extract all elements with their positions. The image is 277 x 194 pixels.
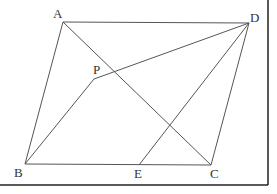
frame-border xyxy=(0,0,268,185)
label-point-P: P xyxy=(93,62,100,77)
segment-DE xyxy=(139,23,249,165)
segments xyxy=(25,22,249,165)
segment-PB xyxy=(25,79,94,164)
segment-DC xyxy=(211,23,249,165)
segment-AB xyxy=(25,22,63,164)
geometry-diagram: ADBCPE xyxy=(0,0,277,194)
segment-AD xyxy=(63,22,249,23)
label-point-B: B xyxy=(14,165,23,180)
label-point-C: C xyxy=(210,166,219,181)
segment-AC xyxy=(63,22,211,165)
segment-BC xyxy=(25,164,211,165)
segment-PD xyxy=(94,23,249,79)
diagram-svg: ADBCPE xyxy=(0,0,277,194)
label-point-A: A xyxy=(53,6,63,21)
label-point-D: D xyxy=(250,10,259,25)
label-point-E: E xyxy=(134,166,142,181)
